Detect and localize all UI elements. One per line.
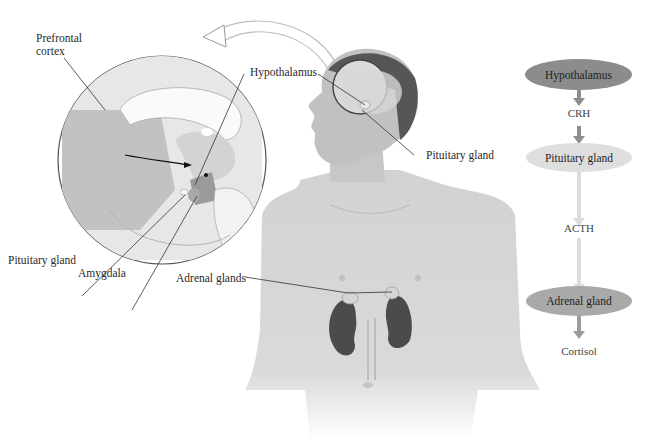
flow-node-adrenal-gland: Adrenal gland [526, 286, 632, 316]
arrow-acth-2 [573, 238, 585, 292]
flow-node-hypothalamus: Hypothalamus [525, 59, 632, 90]
flow-node-pituitary-gland: Pituitary gland [526, 143, 632, 172]
arrow-cortisol [573, 313, 585, 339]
hormone-cortisol: Cortisol [539, 345, 619, 357]
arrow-crh-1 [573, 89, 585, 106]
arrow-crh-2 [573, 126, 585, 144]
hormone-crh: CRH [539, 107, 619, 119]
hormone-acth: ACTH [539, 222, 619, 234]
arrow-acth-1 [573, 169, 585, 226]
hpa-axis-figure: Prefrontal cortex Hypothalamus Pituitary… [0, 0, 662, 444]
